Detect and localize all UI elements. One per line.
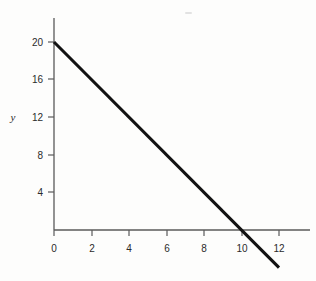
x-tick-label-8: 8: [201, 243, 207, 254]
x-tick-label-0: 0: [51, 243, 57, 254]
y-tick-label-12: 12: [32, 112, 44, 123]
x-tick-label-2: 2: [89, 243, 95, 254]
line-chart: 20 16 12 8 4 y 0 2 4 6 8 10 12: [0, 0, 316, 281]
y-tick-label-20: 20: [32, 37, 44, 48]
y-tick-label-4: 4: [37, 187, 43, 198]
x-tick-label-12: 12: [273, 243, 285, 254]
x-tick-label-6: 6: [164, 243, 170, 254]
chart-canvas: 20 16 12 8 4 y 0 2 4 6 8 10 12: [0, 0, 316, 281]
x-tick-label-4: 4: [126, 243, 132, 254]
y-tick-label-8: 8: [37, 150, 43, 161]
x-tick-label-10: 10: [236, 243, 248, 254]
scan-artifact-speck: [185, 12, 192, 14]
y-axis-label: y: [10, 111, 16, 123]
y-tick-label-16: 16: [32, 74, 44, 85]
